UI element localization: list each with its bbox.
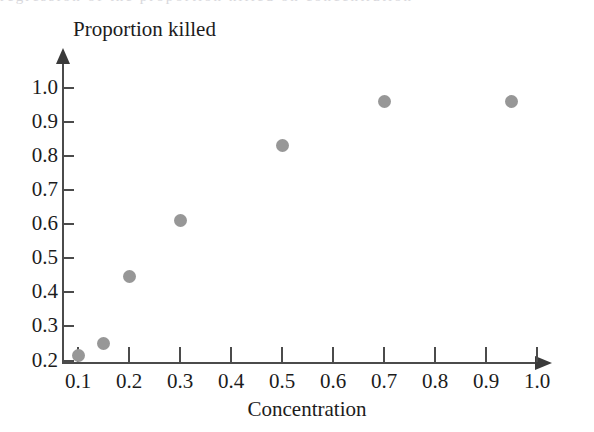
data-point — [276, 139, 289, 152]
scatter-plot: Proportion killed 0.20.30.40.50.60.70.80… — [0, 0, 594, 432]
data-point — [72, 349, 85, 362]
x-axis-line — [62, 362, 537, 364]
y-tick-0.9 — [64, 121, 74, 123]
y-tick-0.7 — [64, 189, 74, 191]
y-tick-label-0.9: 0.9 — [12, 111, 58, 132]
x-tick-label-1.0: 1.0 — [507, 371, 567, 392]
x-tick-0.8 — [434, 347, 436, 362]
data-point — [123, 270, 136, 283]
x-tick-0.5 — [281, 347, 283, 362]
x-tick-0.6 — [332, 347, 334, 362]
data-point — [378, 95, 391, 108]
y-tick-label-0.4: 0.4 — [12, 281, 58, 302]
y-axis-title: Proportion killed — [73, 18, 216, 40]
y-tick-0.2 — [64, 360, 74, 362]
x-tick-0.7 — [383, 347, 385, 362]
y-tick-label-0.6: 0.6 — [12, 213, 58, 234]
x-axis-title-text: Concentration — [248, 398, 367, 420]
y-tick-0.6 — [64, 223, 74, 225]
data-point — [97, 337, 110, 350]
y-tick-0.3 — [64, 325, 74, 327]
x-tick-0.2 — [128, 347, 130, 362]
y-axis-line — [62, 62, 64, 363]
y-tick-0.5 — [64, 257, 74, 259]
y-tick-label-0.8: 0.8 — [12, 145, 58, 166]
y-tick-label-0.3: 0.3 — [12, 315, 58, 336]
x-tick-1.0 — [536, 347, 538, 362]
y-tick-label-0.2: 0.2 — [12, 350, 58, 371]
y-tick-1.0 — [64, 87, 74, 89]
y-axis-tick-labels: 0.20.30.40.50.60.70.80.91.0 — [0, 0, 58, 432]
y-tick-label-0.7: 0.7 — [12, 179, 58, 200]
y-tick-label-1.0: 1.0 — [12, 77, 58, 98]
figure-canvas: regression of the proportion killed on c… — [0, 0, 594, 432]
y-tick-0.8 — [64, 155, 74, 157]
x-axis-title: Concentration — [0, 398, 594, 420]
data-point — [505, 95, 518, 108]
y-tick-label-0.5: 0.5 — [12, 247, 58, 268]
data-point — [174, 214, 187, 227]
y-tick-0.4 — [64, 291, 74, 293]
x-tick-0.3 — [179, 347, 181, 362]
x-tick-0.9 — [485, 347, 487, 362]
y-axis-arrow-icon — [56, 48, 70, 64]
x-tick-0.4 — [230, 347, 232, 362]
